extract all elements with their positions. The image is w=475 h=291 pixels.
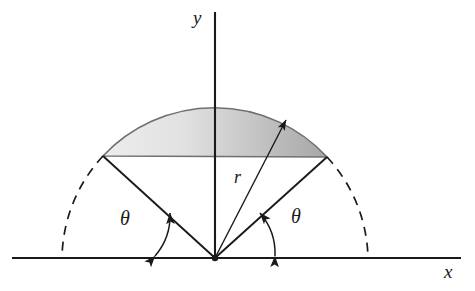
radius-label: r xyxy=(234,168,241,186)
theta-right-label: θ xyxy=(291,206,301,226)
dashed-arc-left xyxy=(62,156,103,258)
y-axis-label: y xyxy=(193,8,201,27)
radius-line-right xyxy=(215,157,327,258)
diagram-canvas xyxy=(0,0,475,291)
origin-point xyxy=(212,255,218,261)
dashed-arc-right xyxy=(327,157,368,258)
theta-left-label: θ xyxy=(120,208,130,228)
x-axis-label: x xyxy=(444,262,452,281)
theta-left-arc xyxy=(155,213,170,256)
geometry-figure: y x r θ θ xyxy=(0,0,475,291)
theta-right-arc xyxy=(260,213,275,256)
